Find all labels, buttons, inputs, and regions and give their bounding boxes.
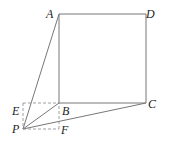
- label-a: A: [45, 7, 54, 21]
- label-b: B: [62, 104, 70, 118]
- geometry-diagram: A D B C E P F: [0, 0, 169, 144]
- label-c: C: [148, 97, 157, 111]
- label-p: P: [11, 122, 20, 136]
- segment-pa: [23, 14, 59, 129]
- label-f: F: [60, 123, 69, 137]
- label-e: E: [11, 104, 20, 118]
- label-d: D: [145, 7, 155, 21]
